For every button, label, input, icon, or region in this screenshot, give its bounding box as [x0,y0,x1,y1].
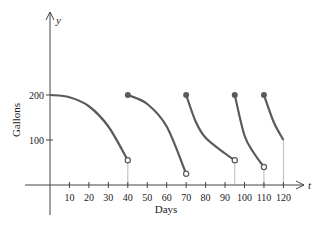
x-axis-symbol: t [308,179,312,191]
y-tick-label: 100 [29,135,44,146]
filled-dot-icon [261,92,267,98]
x-axis-label: Days [155,203,178,215]
x-tick-label: 60 [162,192,172,203]
y-ticks: 100200 [29,90,53,146]
axes: t y [25,12,312,215]
filled-dot-icon [125,92,131,98]
segment-4-curve [235,95,264,167]
x-tick-label: 70 [181,192,191,203]
y-axis-symbol: y [55,14,61,26]
x-tick-label: 100 [237,192,252,203]
y-axis-label: Gallons [10,103,22,137]
segment-3-curve [186,95,235,160]
segment-2-curve [128,95,186,174]
x-tick-label: 50 [142,192,152,203]
x-tick-label: 80 [201,192,211,203]
x-tick-label: 30 [103,192,113,203]
y-tick-label: 200 [29,90,44,101]
open-dot-icon [125,158,130,163]
filled-dot-icon [183,92,189,98]
x-tick-label: 40 [123,192,133,203]
x-tick-label: 120 [276,192,291,203]
segment-1-curve [50,95,128,160]
filled-dot-icon [232,92,238,98]
segment-5-curve [264,95,283,140]
series [50,92,283,176]
open-dot-icon [232,158,237,163]
x-tick-label: 10 [64,192,74,203]
x-tick-label: 110 [257,192,272,203]
open-dot-icon [261,164,266,169]
x-tick-label: 20 [84,192,94,203]
open-dot-icon [184,171,189,176]
x-tick-label: 90 [220,192,230,203]
chart: t y 102030405060708090100110120 100200 D… [0,0,319,232]
